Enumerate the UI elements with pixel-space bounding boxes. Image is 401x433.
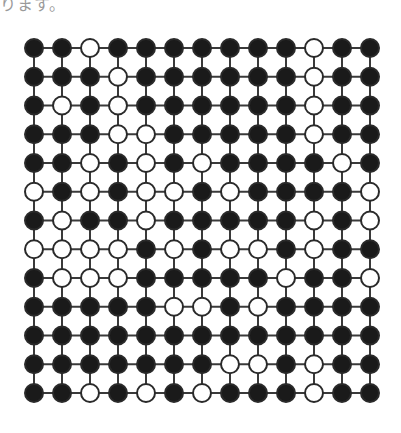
white-site-dot — [361, 183, 379, 201]
spin-lattice-diagram — [0, 0, 401, 433]
white-site-dot — [305, 355, 323, 373]
black-site-dot — [193, 240, 211, 258]
white-site-dot — [109, 97, 127, 115]
black-site-dot — [333, 125, 351, 143]
black-site-dot — [221, 125, 239, 143]
black-site-dot — [165, 355, 183, 373]
black-site-dot — [81, 125, 99, 143]
white-site-dot — [81, 269, 99, 287]
black-site-dot — [361, 125, 379, 143]
black-site-dot — [53, 183, 71, 201]
black-site-dot — [25, 68, 43, 86]
black-site-dot — [305, 183, 323, 201]
white-site-dot — [81, 384, 99, 402]
black-site-dot — [53, 68, 71, 86]
black-site-dot — [277, 355, 295, 373]
black-site-dot — [81, 298, 99, 316]
black-site-dot — [277, 154, 295, 172]
white-site-dot — [221, 183, 239, 201]
black-site-dot — [25, 97, 43, 115]
black-site-dot — [25, 384, 43, 402]
white-site-dot — [137, 212, 155, 230]
white-site-dot — [249, 355, 267, 373]
black-site-dot — [165, 68, 183, 86]
white-site-dot — [109, 68, 127, 86]
black-site-dot — [333, 269, 351, 287]
black-site-dot — [221, 327, 239, 345]
black-site-dot — [333, 355, 351, 373]
black-site-dot — [53, 355, 71, 373]
black-site-dot — [137, 97, 155, 115]
black-site-dot — [361, 68, 379, 86]
white-site-dot — [305, 240, 323, 258]
black-site-dot — [277, 125, 295, 143]
black-site-dot — [221, 384, 239, 402]
black-site-dot — [249, 125, 267, 143]
black-site-dot — [137, 269, 155, 287]
black-site-dot — [277, 384, 295, 402]
black-site-dot — [25, 125, 43, 143]
black-site-dot — [221, 212, 239, 230]
white-site-dot — [81, 154, 99, 172]
black-site-dot — [165, 125, 183, 143]
black-site-dot — [333, 97, 351, 115]
black-site-dot — [81, 327, 99, 345]
black-site-dot — [137, 68, 155, 86]
black-site-dot — [221, 298, 239, 316]
black-site-dot — [277, 68, 295, 86]
white-site-dot — [53, 269, 71, 287]
white-site-dot — [137, 183, 155, 201]
white-site-dot — [221, 355, 239, 373]
black-site-dot — [361, 355, 379, 373]
black-site-dot — [81, 212, 99, 230]
white-site-dot — [137, 125, 155, 143]
black-site-dot — [305, 327, 323, 345]
black-site-dot — [109, 212, 127, 230]
black-site-dot — [221, 97, 239, 115]
black-site-dot — [249, 269, 267, 287]
black-site-dot — [109, 183, 127, 201]
black-site-dot — [361, 39, 379, 57]
white-site-dot — [193, 384, 211, 402]
black-site-dot — [333, 240, 351, 258]
black-site-dot — [53, 327, 71, 345]
black-site-dot — [221, 39, 239, 57]
black-site-dot — [109, 154, 127, 172]
black-site-dot — [333, 39, 351, 57]
black-site-dot — [193, 327, 211, 345]
black-site-dot — [109, 384, 127, 402]
white-site-dot — [193, 298, 211, 316]
black-site-dot — [277, 327, 295, 345]
white-site-dot — [277, 269, 295, 287]
white-site-dot — [109, 125, 127, 143]
black-site-dot — [193, 183, 211, 201]
black-site-dot — [249, 68, 267, 86]
black-site-dot — [305, 154, 323, 172]
black-site-dot — [165, 269, 183, 287]
black-site-dot — [165, 327, 183, 345]
black-site-dot — [25, 212, 43, 230]
black-site-dot — [193, 269, 211, 287]
black-site-dot — [137, 298, 155, 316]
black-site-dot — [333, 384, 351, 402]
white-site-dot — [305, 125, 323, 143]
black-site-dot — [277, 298, 295, 316]
white-site-dot — [53, 212, 71, 230]
black-site-dot — [249, 97, 267, 115]
black-site-dot — [137, 240, 155, 258]
black-site-dot — [361, 384, 379, 402]
black-site-dot — [81, 68, 99, 86]
black-site-dot — [277, 183, 295, 201]
black-site-dot — [137, 355, 155, 373]
black-site-dot — [333, 327, 351, 345]
black-site-dot — [249, 183, 267, 201]
white-site-dot — [221, 240, 239, 258]
black-site-dot — [277, 97, 295, 115]
white-site-dot — [193, 154, 211, 172]
black-site-dot — [165, 39, 183, 57]
white-site-dot — [305, 212, 323, 230]
black-site-dot — [109, 355, 127, 373]
black-site-dot — [25, 154, 43, 172]
black-site-dot — [221, 269, 239, 287]
white-site-dot — [361, 269, 379, 287]
